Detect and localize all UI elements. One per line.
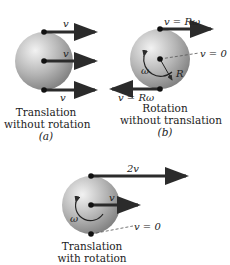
caption-a: Translation without rotation (a) (4, 106, 88, 142)
caption-a-line1: Translation (4, 106, 88, 118)
caption-a-sublabel: (a) (4, 130, 88, 142)
label-v-bottom-a: v (60, 92, 66, 103)
label-v0-b: v = 0 (200, 48, 227, 59)
caption-c: Translation with rotation (52, 240, 132, 264)
caption-b-line2: without translation (120, 114, 210, 126)
caption-b-sublabel: (b) (120, 126, 210, 138)
label-v-top-a: v (63, 18, 69, 29)
caption-c-line2: with rotation (52, 252, 132, 264)
panel-a: v v v (15, 18, 95, 103)
label-v0-c: v = 0 (134, 221, 161, 232)
label-v-center-a: v (63, 48, 69, 59)
panel-b: v = Rω v = 0 v = Rω R ω (112, 16, 227, 103)
caption-b: Rotation without translation (b) (120, 102, 210, 138)
label-2v-c: 2v (126, 163, 139, 174)
label-v-top-b: v = Rω (164, 16, 200, 27)
label-v-center-c: v (109, 192, 115, 203)
caption-c-line1: Translation (52, 240, 132, 252)
panel-c: 2v v v = 0 ω (62, 163, 186, 237)
label-omega-c: ω (70, 213, 78, 224)
label-radius-b: R (175, 68, 184, 79)
caption-b-line1: Rotation (120, 102, 210, 114)
label-omega-b: ω (141, 65, 149, 76)
caption-a-line2: without rotation (4, 118, 88, 130)
